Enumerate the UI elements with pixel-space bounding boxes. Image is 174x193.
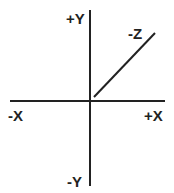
label-negative-x: -X <box>8 107 23 124</box>
axes-diagram: +Y -Y -X +X -Z <box>0 0 174 193</box>
label-positive-y: +Y <box>66 10 85 27</box>
z-axis-line <box>94 33 155 97</box>
label-negative-z: -Z <box>128 25 142 42</box>
label-positive-x: +X <box>144 107 163 124</box>
label-negative-y: -Y <box>67 173 82 190</box>
